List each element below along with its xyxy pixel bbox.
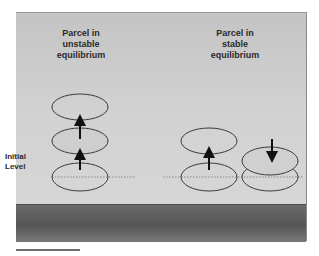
parcel-unstable-top	[52, 94, 108, 120]
parcel-diagram	[0, 0, 319, 256]
footer-rule	[16, 249, 80, 251]
parcel-stable-displaced-up	[181, 128, 237, 154]
parcel-stable-displaced-down	[242, 147, 298, 175]
